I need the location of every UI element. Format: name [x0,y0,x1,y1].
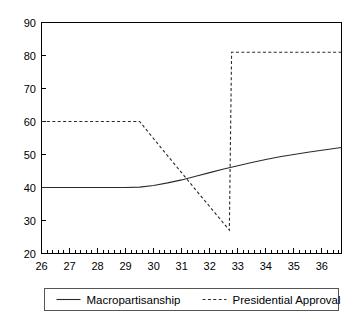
x-tick-label: 30 [148,260,160,272]
x-tick-label: 31 [176,260,188,272]
y-tick-label: 30 [24,215,36,227]
x-tick-label: 36 [316,260,328,272]
legend-label-1: Macropartisanship [87,294,181,306]
x-tick-label: 35 [288,260,300,272]
x-tick-label: 26 [35,260,47,272]
line-chart: 2030405060708090 2627282930313233343536 … [0,0,358,321]
series-line-2 [42,52,342,230]
y-tick-label: 60 [24,116,36,128]
y-tick-label: 80 [24,50,36,62]
x-tick-label: 33 [232,260,244,272]
chart-figure: 2030405060708090 2627282930313233343536 … [0,0,358,321]
data-series-group [42,52,342,230]
x-tick-label: 29 [119,260,131,272]
x-tick-label: 34 [260,260,272,272]
y-tick-label: 40 [24,182,36,194]
y-tick-label: 20 [24,248,36,260]
x-tick-label: 28 [91,260,103,272]
y-tick-label: 50 [24,149,36,161]
y-axis-tick-labels: 2030405060708090 [24,17,36,260]
x-axis-tick-labels: 2627282930313233343536 [35,260,328,272]
series-line-1 [42,148,342,188]
chart-legend: MacropartisanshipPresidential Approval [45,289,341,311]
x-tick-label: 32 [204,260,216,272]
axis-tick-marks [42,23,339,254]
y-tick-label: 90 [24,17,36,29]
legend-label-2: Presidential Approval [233,294,341,306]
plot-axes [42,22,342,254]
y-tick-label: 70 [24,83,36,95]
x-tick-label: 27 [63,260,75,272]
